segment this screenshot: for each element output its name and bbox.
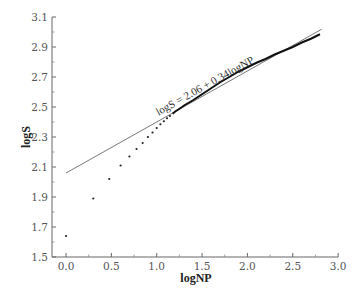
y-tick-label: 2.1 xyxy=(31,161,48,173)
y-tick-label: 1.7 xyxy=(31,221,48,233)
y-tick-label: 2.7 xyxy=(31,71,48,83)
data-point xyxy=(108,178,110,180)
x-tick-label: 0.5 xyxy=(103,260,120,272)
data-point xyxy=(151,131,153,133)
scatter-chart: 1.51.71.92.12.32.52.72.93.1 0.00.51.01.5… xyxy=(0,0,357,291)
x-tick-label: 2.0 xyxy=(239,260,256,272)
x-axis-title-text: logNP xyxy=(180,271,211,285)
x-tick-label: 1.0 xyxy=(148,260,165,272)
data-point xyxy=(120,164,122,166)
data-point xyxy=(166,117,168,119)
data-point xyxy=(156,127,158,129)
x-tick-label: 2.5 xyxy=(284,260,301,272)
x-tick-label: 0.0 xyxy=(58,260,75,272)
y-tick-label: 1.9 xyxy=(31,191,48,203)
fit-equation-annotation: logS = 2.06 + 0.34logNP xyxy=(154,54,256,118)
x-tick-label: 3.0 xyxy=(330,260,347,272)
x-axis: 0.00.51.01.52.02.53.0 xyxy=(52,253,346,272)
data-point xyxy=(128,155,130,157)
observed-curve xyxy=(173,34,320,114)
data-points xyxy=(65,115,171,237)
y-tick-label: 3.1 xyxy=(31,11,48,23)
y-axis-title: logS xyxy=(19,126,33,148)
y-tick-label: 2.5 xyxy=(31,101,48,113)
data-point xyxy=(135,148,137,150)
y-axis: 1.51.71.92.12.32.52.72.93.1 xyxy=(31,11,56,263)
data-point xyxy=(92,197,94,199)
data-point xyxy=(163,120,165,122)
data-point xyxy=(142,142,144,144)
y-tick-label: 2.9 xyxy=(31,41,48,53)
data-point xyxy=(159,123,161,125)
y-tick-label: 2.3 xyxy=(31,131,48,143)
data-point xyxy=(169,115,171,117)
y-axis-title-text: logS xyxy=(19,126,33,148)
y-tick-label: 1.5 xyxy=(31,251,48,263)
data-point xyxy=(65,235,67,237)
data-point xyxy=(147,136,149,138)
x-axis-title: logNP xyxy=(180,271,211,285)
